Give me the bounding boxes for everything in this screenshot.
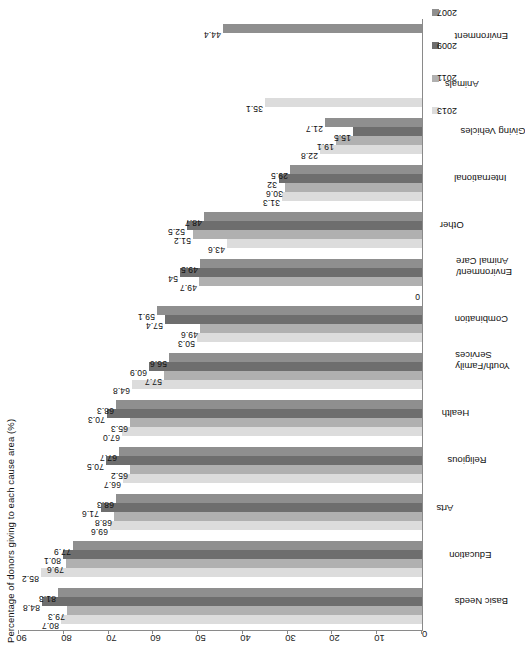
bar-value-label: 65.3 xyxy=(110,424,127,434)
legend-item[interactable]: 2007 xyxy=(432,3,452,23)
bar[interactable] xyxy=(122,428,422,437)
bar[interactable] xyxy=(282,193,422,202)
category-label: Youth/Family Services xyxy=(455,350,510,372)
category-label: Health xyxy=(442,408,469,419)
y-axis-tick-mark xyxy=(242,630,243,634)
bar[interactable] xyxy=(164,372,422,381)
bar[interactable] xyxy=(42,598,422,607)
bar[interactable] xyxy=(149,363,422,372)
bar[interactable] xyxy=(169,354,422,363)
bar-slot xyxy=(20,90,422,99)
category-label: Environment xyxy=(455,32,508,43)
bar[interactable] xyxy=(41,569,423,578)
bar-value-label: 48.7 xyxy=(185,218,202,228)
bar-value-label: 80.7 xyxy=(42,621,59,631)
bar[interactable] xyxy=(200,325,422,334)
bar-value-label: 66.7 xyxy=(104,480,121,490)
bar-slot: 30.6 xyxy=(20,184,422,193)
bar[interactable] xyxy=(320,146,422,155)
legend-item[interactable]: 2009 xyxy=(432,36,452,56)
bar[interactable] xyxy=(114,513,422,522)
bar-slot: 54 xyxy=(20,269,422,278)
bar-value-label: 59.1 xyxy=(138,312,155,322)
bar[interactable] xyxy=(61,616,422,625)
bar-value-label: 32 xyxy=(267,180,277,190)
bar[interactable] xyxy=(197,334,422,343)
bar[interactable] xyxy=(130,466,422,475)
bar-group: 43.651.252.548.7 xyxy=(20,213,422,249)
bar[interactable] xyxy=(325,119,422,128)
bar-value-label: 49.5 xyxy=(181,265,198,275)
bar-slot xyxy=(20,52,422,61)
bar[interactable] xyxy=(110,522,422,531)
bar[interactable] xyxy=(157,307,422,316)
bar[interactable] xyxy=(279,175,422,184)
bar[interactable] xyxy=(58,589,422,598)
y-axis-tick-label: 50 xyxy=(190,632,206,643)
bar-value-label: 56.6 xyxy=(149,359,166,369)
bar[interactable] xyxy=(353,128,422,137)
bar-slot: 80.1 xyxy=(20,551,422,560)
bar[interactable] xyxy=(193,231,422,240)
category-label: International xyxy=(454,173,506,184)
legend-item[interactable]: 2011 xyxy=(432,69,452,88)
bar-slot: 59.1 xyxy=(20,307,422,316)
bar[interactable] xyxy=(132,381,422,390)
bar-group: 85.279.680.177.9 xyxy=(20,542,422,578)
bar-group: 35.1 xyxy=(20,72,422,108)
bar[interactable] xyxy=(66,560,422,569)
bar[interactable] xyxy=(165,316,422,325)
bar-slot: 32 xyxy=(20,175,422,184)
bar[interactable] xyxy=(227,240,422,249)
bar-slot: 81.3 xyxy=(20,589,422,598)
bar-value-label: 67.0 xyxy=(103,433,120,443)
category-label: Arts xyxy=(436,502,453,513)
bar-slot: 56.6 xyxy=(20,354,422,363)
bar-slot: 70.5 xyxy=(20,457,422,466)
bar-value-label: 64.8 xyxy=(113,386,130,396)
bar-slot: 79.6 xyxy=(20,560,422,569)
bar[interactable] xyxy=(116,401,422,410)
bar[interactable] xyxy=(265,99,422,108)
bar-slot: 68.8 xyxy=(20,513,422,522)
y-axis-tick-label: 0 xyxy=(417,630,427,641)
bar[interactable] xyxy=(285,184,422,193)
y-axis-tick-label: 70 xyxy=(101,632,117,643)
bar[interactable] xyxy=(116,495,422,504)
bar-slot: 51.2 xyxy=(20,231,422,240)
bar[interactable] xyxy=(180,269,422,278)
bar[interactable] xyxy=(67,607,422,616)
legend-item[interactable]: 2013 xyxy=(432,101,452,121)
bar[interactable] xyxy=(199,278,422,287)
bar-value-label: 15.5 xyxy=(333,133,350,143)
bar-slot xyxy=(20,34,422,43)
y-axis-tick-label: 60 xyxy=(146,632,162,643)
bar[interactable] xyxy=(290,166,422,175)
bar[interactable] xyxy=(119,448,422,457)
bar[interactable] xyxy=(204,213,422,222)
category-label-slot: Combination xyxy=(425,301,481,348)
legend-label: 2007 xyxy=(437,8,457,18)
bar-group: 67.065.370.368.3 xyxy=(20,401,422,437)
bar[interactable] xyxy=(130,419,422,428)
bar-slot: 70.3 xyxy=(20,410,422,419)
bar-value-label: 29.5 xyxy=(271,171,288,181)
bar-value-label: 68.3 xyxy=(97,406,114,416)
bar[interactable] xyxy=(123,475,422,484)
bar[interactable] xyxy=(101,504,422,513)
bar[interactable] xyxy=(107,410,422,419)
bar-group: 31.330.63229.5 xyxy=(20,166,422,202)
bar[interactable] xyxy=(200,260,422,269)
bar[interactable] xyxy=(106,457,422,466)
bar-group: 80.779.384.881.3 xyxy=(20,589,422,625)
bar-slot: 21.7 xyxy=(20,119,422,128)
bar-value-label: 70.5 xyxy=(87,462,104,472)
bar-slot: 15.5 xyxy=(20,128,422,137)
bar[interactable] xyxy=(63,551,422,560)
bar[interactable] xyxy=(73,542,422,551)
bar-group: 44.4 xyxy=(20,25,422,61)
bar[interactable] xyxy=(223,25,422,34)
bar-value-label: 49.6 xyxy=(181,330,198,340)
bar[interactable] xyxy=(187,222,422,231)
